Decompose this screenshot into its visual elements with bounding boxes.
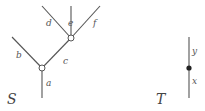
- label-y: y: [191, 46, 198, 56]
- label-c: c: [63, 56, 68, 66]
- tree-t-name: T: [156, 91, 167, 107]
- tree-s-name: S: [7, 91, 17, 107]
- label-e: e: [68, 18, 73, 28]
- label-d: d: [46, 18, 52, 28]
- node-t: [186, 65, 191, 70]
- tree-s: a b c d e f S: [7, 6, 100, 107]
- tree-t: x y T: [156, 37, 198, 107]
- diagram-canvas: a b c d e f S x y T: [0, 0, 205, 111]
- label-b: b: [16, 50, 22, 60]
- label-f: f: [92, 18, 98, 28]
- node-top: [68, 35, 74, 41]
- label-a: a: [46, 78, 51, 88]
- label-x: x: [192, 76, 197, 86]
- node-bottom: [39, 65, 45, 71]
